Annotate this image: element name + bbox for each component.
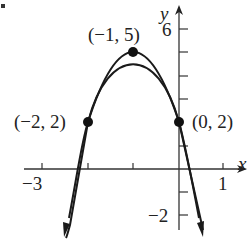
right-arrow-head [197,221,204,237]
y-tick-label-6: 6 [162,20,172,39]
y-tick-label-neg2: −2 [148,206,168,225]
point-right [174,117,184,127]
bullet-mark [1,4,5,8]
x-axis-label: x [238,154,246,173]
point-left [83,117,93,127]
x-tick-label-neg3: −3 [22,174,42,193]
vertex-label: (−1, 5) [88,25,140,44]
point-vertex [128,47,138,57]
x-ticks [42,163,223,169]
parabola-curve [66,52,203,238]
right-point-label: (0, 2) [192,112,233,131]
x-tick-label-1: 1 [218,174,228,193]
left-point-label: (−2, 2) [14,112,66,131]
